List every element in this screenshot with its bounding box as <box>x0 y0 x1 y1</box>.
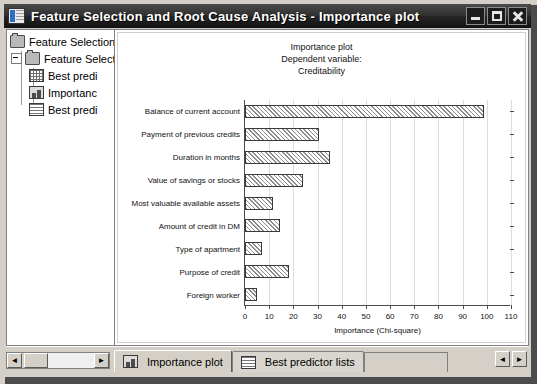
folder-icon <box>10 35 25 48</box>
chart-bar <box>245 151 330 164</box>
y-axis-category-label: Value of savings or stocks <box>148 176 240 185</box>
chart-title: Importance plot <box>118 41 525 53</box>
grid-line <box>366 100 367 305</box>
x-axis-tick-label: 90 <box>458 312 467 321</box>
y-axis-tick <box>510 111 514 112</box>
plot-panel[interactable]: Importance plot Dependent variable: Cred… <box>114 29 529 346</box>
y-axis-category-label: Amount of credit in DM <box>159 221 240 230</box>
tree-item-best-predictor-lists[interactable]: Best predi <box>7 101 114 118</box>
grid-line <box>438 100 439 305</box>
scroll-right-button[interactable]: ► <box>94 353 109 368</box>
x-axis-tick-label: 0 <box>243 312 247 321</box>
chart-bar <box>245 288 257 301</box>
x-axis-tick-label: 60 <box>386 312 395 321</box>
x-axis-tick <box>318 305 319 309</box>
y-axis-tick <box>510 157 514 158</box>
tab-nav-buttons: ◄ ► <box>495 351 527 367</box>
x-axis-tick-label: 80 <box>434 312 443 321</box>
x-axis-tick-label: 70 <box>410 312 419 321</box>
window-frame: Feature Selection and Root Cause Analysi… <box>0 0 531 377</box>
tree-item-label: Best predi <box>48 70 98 82</box>
window-shadow-bottom <box>5 377 537 384</box>
workbook-tree-panel[interactable]: Feature Selection Feature Select Best pr… <box>6 29 114 346</box>
y-axis-tick <box>510 180 514 181</box>
tab-label: Importance plot <box>147 356 223 368</box>
chart-bar <box>245 128 319 141</box>
document-tabs: Importance plot Best predictor lists <box>114 350 448 372</box>
chart-bar <box>245 105 484 118</box>
tree-item-label: Feature Selection <box>29 36 114 48</box>
tree-item-label: Feature Select <box>44 53 114 65</box>
statistica-workbook-icon <box>8 8 25 24</box>
chart-bar <box>245 219 280 232</box>
chart-subtitle: Dependent variable: <box>118 53 525 65</box>
y-axis-category-label: Duration in months <box>173 153 240 162</box>
tree-item-feature-selection[interactable]: Feature Selection <box>7 33 114 50</box>
x-axis-tick-label: 40 <box>337 312 346 321</box>
grid-line <box>414 100 415 305</box>
title-bar[interactable]: Feature Selection and Root Cause Analysi… <box>4 4 531 28</box>
scrollbar-thumb[interactable] <box>24 353 48 368</box>
application-window: Feature Selection and Root Cause Analysi… <box>0 0 537 384</box>
y-axis-category-label: Balance of current account <box>145 107 240 116</box>
y-axis-tick <box>510 134 514 135</box>
tree-item-feature-select[interactable]: Feature Select <box>7 50 114 67</box>
report-icon <box>29 103 44 116</box>
x-axis-tick-label: 50 <box>361 312 370 321</box>
window-controls <box>466 7 527 25</box>
y-axis-category-label: Most valuable available assets <box>131 199 240 208</box>
y-axis-tick <box>510 272 514 273</box>
tree-item-best-predictors-spreadsheet[interactable]: Best predi <box>7 67 114 84</box>
chart-bar <box>245 197 273 210</box>
x-axis-tick <box>366 305 367 309</box>
collapse-expander-icon[interactable] <box>11 53 22 64</box>
client-area: Feature Selection Feature Select Best pr… <box>6 29 529 346</box>
report-icon <box>241 356 256 369</box>
x-axis-tick-label: 30 <box>313 312 322 321</box>
tree-item-importance-plot[interactable]: Importanc <box>7 84 114 101</box>
x-axis-tick <box>342 305 343 309</box>
tab-strip-filler <box>364 352 448 372</box>
x-axis-tick <box>414 305 415 309</box>
x-axis-tick <box>438 305 439 309</box>
x-axis-label: Importance (Chi-square) <box>245 326 510 335</box>
grid-line <box>342 100 343 305</box>
minimize-button[interactable] <box>466 7 485 25</box>
tree-horizontal-scrollbar[interactable]: ◄ ► <box>6 352 110 369</box>
grid-line <box>487 100 488 305</box>
y-axis-tick <box>510 203 514 204</box>
chart-axes: Importance (Chi-square) 0102030405060708… <box>244 100 510 306</box>
y-axis-category-label: Foreign worker <box>187 290 240 299</box>
y-axis-category-label: Type of apartment <box>176 244 240 253</box>
grid-line <box>390 100 391 305</box>
chart-bar <box>245 265 289 278</box>
x-axis-tick <box>245 305 246 309</box>
chart-icon <box>29 86 44 99</box>
tab-best-predictor-lists[interactable]: Best predictor lists <box>232 351 364 372</box>
tree-item-label: Importanc <box>48 87 97 99</box>
x-axis-tick-label: 20 <box>289 312 298 321</box>
chart-bar <box>245 242 262 255</box>
x-axis-tick-label: 110 <box>505 312 518 321</box>
scroll-left-button[interactable]: ◄ <box>7 353 22 368</box>
tab-prev-button[interactable]: ◄ <box>495 351 510 367</box>
chart-subtitle-variable: Creditability <box>118 65 525 77</box>
folder-icon <box>25 52 40 65</box>
x-axis-tick <box>511 305 512 309</box>
close-button[interactable] <box>508 7 527 25</box>
tree-item-label: Best predi <box>48 104 98 116</box>
maximize-button[interactable] <box>487 7 506 25</box>
plot-canvas: Importance plot Dependent variable: Cred… <box>117 32 526 343</box>
tab-next-button[interactable]: ► <box>512 351 527 367</box>
x-axis-tick <box>487 305 488 309</box>
chart-title-block: Importance plot Dependent variable: Cred… <box>118 41 525 77</box>
bottom-bar: ◄ ► Importance plot Best predictor lists… <box>6 346 529 375</box>
x-axis-tick <box>390 305 391 309</box>
chart-bar <box>245 174 303 187</box>
scrollbar-track[interactable] <box>48 353 94 368</box>
y-axis-category-label: Purpose of credit <box>180 267 240 276</box>
chart-icon <box>123 355 138 368</box>
x-axis-tick-label: 100 <box>480 312 493 321</box>
tab-importance-plot[interactable]: Importance plot <box>114 350 232 372</box>
tab-label: Best predictor lists <box>265 356 355 368</box>
